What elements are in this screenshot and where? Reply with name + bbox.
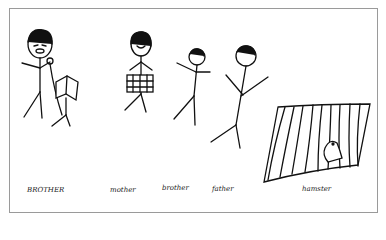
label-father: father — [212, 185, 234, 193]
father-figure — [211, 46, 268, 148]
book-stand — [52, 76, 78, 126]
label-brother-2: brother — [162, 184, 189, 192]
brother-figure-2 — [174, 49, 210, 125]
brother-figure-1 — [22, 30, 62, 118]
mother-figure — [125, 32, 153, 112]
label-mother: mother — [110, 186, 136, 194]
label-hamster: hamster — [302, 185, 331, 193]
hamster-cage — [264, 104, 370, 182]
label-brother-1: BROTHER — [27, 186, 64, 194]
